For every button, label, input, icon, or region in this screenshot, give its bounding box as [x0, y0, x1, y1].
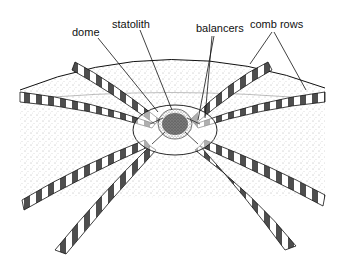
- label-comb-rows: comb rows: [250, 18, 304, 30]
- label-dome: dome: [72, 26, 100, 38]
- diagram-canvas: dome statolith balancers comb rows: [0, 0, 345, 265]
- diagram-svg: dome statolith balancers comb rows: [0, 0, 345, 265]
- label-statolith: statolith: [112, 18, 150, 30]
- label-balancers: balancers: [196, 22, 244, 34]
- statolith: [158, 109, 192, 139]
- comb-rows-leader-1: [250, 32, 272, 64]
